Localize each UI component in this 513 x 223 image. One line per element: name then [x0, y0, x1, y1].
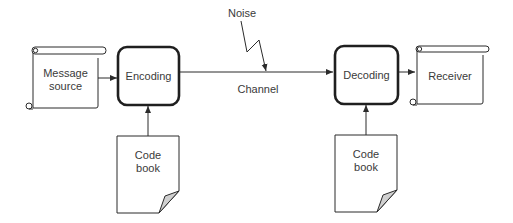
code-book-label-1: Code book: [117, 149, 179, 175]
communication-diagram: [0, 0, 513, 223]
encoding-label: Encoding: [118, 70, 179, 83]
code-book-label-2-line1: Code: [335, 148, 397, 161]
code-book-label-1-line2: book: [117, 162, 179, 175]
channel-label: Channel: [228, 83, 288, 96]
message-source-label-line1: Message: [33, 67, 98, 80]
decoding-label: Decoding: [335, 69, 398, 82]
noise-lightning-icon: [241, 21, 266, 71]
code-book-label-2: Code book: [335, 148, 397, 174]
message-source-label: Message source: [33, 67, 98, 93]
code-book-label-1-line1: Code: [117, 149, 179, 162]
receiver-label: Receiver: [417, 70, 483, 83]
noise-label: Noise: [222, 7, 262, 20]
message-source-label-line2: source: [33, 80, 98, 93]
code-book-label-2-line2: book: [335, 161, 397, 174]
